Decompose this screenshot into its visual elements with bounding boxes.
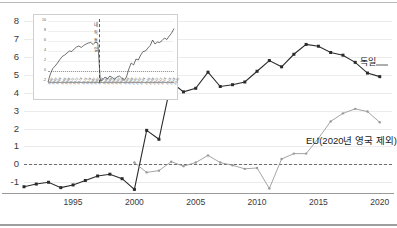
data-point bbox=[379, 121, 381, 123]
data-point bbox=[182, 90, 185, 93]
data-point bbox=[219, 161, 221, 163]
inset-y-tick-label: 4 bbox=[44, 49, 46, 53]
data-point bbox=[256, 167, 258, 169]
x-tick-label: 2010 bbox=[248, 198, 267, 207]
x-tick-label: 2005 bbox=[186, 198, 205, 207]
data-point bbox=[72, 183, 75, 186]
data-point bbox=[366, 110, 368, 112]
x-tick-label: 2000 bbox=[125, 198, 144, 207]
data-point bbox=[342, 112, 344, 114]
data-point bbox=[366, 72, 369, 75]
data-point bbox=[84, 179, 87, 182]
data-point bbox=[207, 154, 209, 156]
data-point bbox=[354, 61, 357, 64]
inset-y-tick-label: 0 bbox=[44, 69, 46, 73]
data-point bbox=[268, 187, 270, 189]
data-point bbox=[231, 164, 233, 166]
x-tick-label: 2015 bbox=[309, 198, 328, 207]
data-point bbox=[35, 183, 38, 186]
x-tick-label: 2020 bbox=[370, 198, 389, 207]
x-axis-line bbox=[2, 193, 394, 194]
data-point bbox=[47, 181, 50, 184]
data-point bbox=[280, 158, 282, 160]
chart-figure: -1012345678 199520002005201020152020 독일 … bbox=[0, 0, 397, 228]
y-tick-label: 1 bbox=[14, 142, 19, 152]
data-point bbox=[59, 186, 62, 189]
eu-series-label: EU(2020년 영국 제외) bbox=[306, 136, 397, 146]
germany-series-label: 독일 bbox=[360, 58, 376, 67]
data-point bbox=[243, 81, 246, 84]
data-point bbox=[292, 53, 295, 56]
inset-y-tick-label: 10 bbox=[42, 19, 46, 23]
data-point bbox=[145, 171, 147, 173]
inset-series-line bbox=[48, 19, 174, 83]
data-point bbox=[268, 59, 271, 62]
data-point bbox=[329, 120, 331, 122]
data-point bbox=[133, 161, 135, 163]
data-point bbox=[96, 174, 99, 177]
data-point bbox=[158, 169, 160, 171]
inset-y-tick-label: 2 bbox=[44, 59, 46, 63]
data-point bbox=[280, 65, 283, 68]
inset-series-path bbox=[48, 29, 174, 83]
data-point bbox=[194, 87, 197, 90]
data-point bbox=[157, 138, 160, 141]
data-point bbox=[219, 85, 222, 88]
data-point bbox=[244, 168, 246, 170]
data-point bbox=[145, 129, 148, 132]
data-point bbox=[133, 188, 136, 191]
bottom-border-rule bbox=[0, 224, 397, 226]
top-border-rule bbox=[0, 2, 397, 3]
data-point bbox=[23, 185, 26, 188]
y-tick-label: 6 bbox=[14, 52, 19, 62]
data-point bbox=[108, 173, 111, 176]
data-point bbox=[305, 43, 308, 46]
inset-chart: 1086420-2 196019621964196619681970197219… bbox=[33, 14, 178, 100]
data-point bbox=[182, 165, 184, 167]
data-point bbox=[170, 160, 172, 162]
data-point bbox=[305, 152, 307, 154]
inset-y-tick-label: 8 bbox=[44, 29, 46, 33]
y-tick-label: -1 bbox=[11, 178, 19, 188]
data-point bbox=[354, 108, 356, 110]
y-tick-label: 3 bbox=[14, 106, 19, 116]
y-tick-label: 0 bbox=[14, 160, 19, 170]
y-tick-label: 7 bbox=[14, 34, 19, 44]
y-tick-label: 4 bbox=[14, 88, 19, 98]
inset-y-tick-label: -2 bbox=[43, 79, 46, 83]
data-point bbox=[293, 152, 295, 154]
inset-y-tick-label: 6 bbox=[44, 39, 46, 43]
inset-plot-area: 1086420-2 196019621964196619681970197219… bbox=[48, 19, 174, 83]
x-tick-label: 1995 bbox=[64, 198, 83, 207]
data-point bbox=[207, 71, 210, 74]
data-point bbox=[317, 45, 320, 48]
data-point bbox=[256, 70, 259, 73]
data-point bbox=[195, 161, 197, 163]
data-point bbox=[341, 54, 344, 57]
data-point bbox=[121, 177, 124, 180]
data-point bbox=[231, 83, 234, 86]
y-tick-label: 5 bbox=[14, 70, 19, 80]
series-path bbox=[134, 109, 379, 189]
y-tick-label: 8 bbox=[14, 16, 19, 26]
data-point bbox=[378, 75, 381, 78]
data-point bbox=[329, 51, 332, 54]
y-tick-label: 2 bbox=[14, 124, 19, 134]
